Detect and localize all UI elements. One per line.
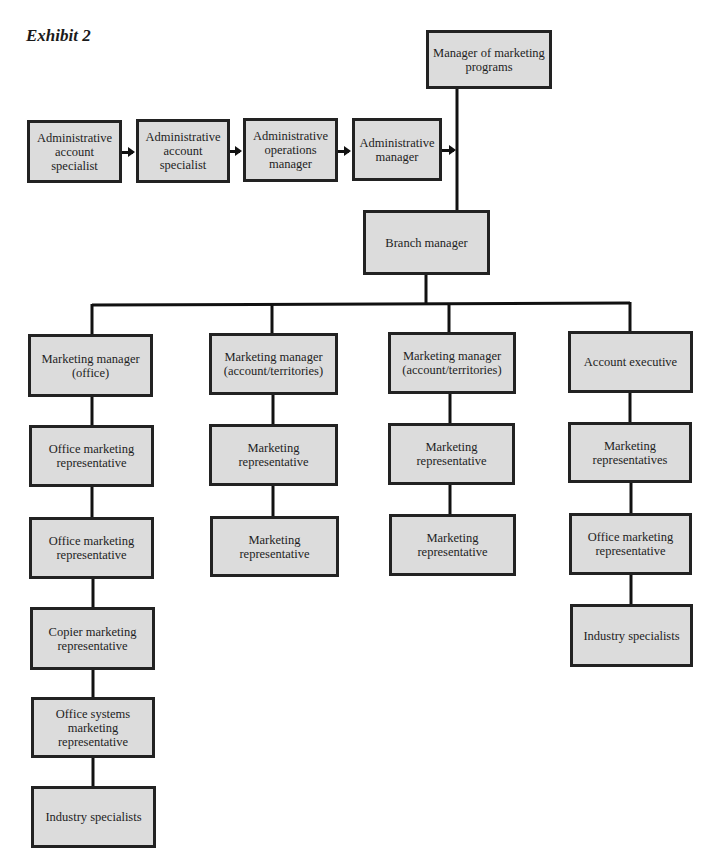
box-col3-child-2: Marketing representative	[389, 514, 516, 576]
box-admin-operations-manager: Administrative operations manager	[243, 118, 338, 182]
box-label: Marketing manager (account/territories)	[395, 349, 509, 377]
exhibit-title: Exhibit 2	[26, 26, 91, 46]
box-label: Copier marketing representative	[37, 625, 148, 653]
box-label: Administrative operations manager	[250, 129, 331, 171]
box-col1-head: Marketing manager (office)	[28, 334, 153, 397]
box-label: Administrative manager	[359, 136, 435, 164]
box-label: Marketing representative	[217, 533, 332, 561]
box-col4-child-3: Industry specialists	[570, 604, 693, 667]
box-label: Branch manager	[385, 236, 467, 250]
box-admin-account-specialist-1: Administrative account specialist	[27, 120, 122, 183]
box-label: Administrative account specialist	[34, 131, 115, 173]
box-label: Office systems marketing representative	[38, 707, 148, 749]
box-label: Manager of marketing programs	[433, 46, 545, 74]
box-label: Industry specialists	[45, 810, 141, 824]
box-label: Office marketing representative	[576, 530, 685, 558]
box-label: Marketing representative	[216, 441, 331, 469]
box-col1-child-1: Office marketing representative	[29, 425, 154, 487]
arrow-right-icon	[122, 151, 133, 154]
box-branch-manager: Branch manager	[363, 210, 490, 275]
arrow-right-icon	[338, 150, 349, 153]
box-label: Marketing manager (account/territories)	[216, 350, 331, 378]
box-col1-child-4: Office systems marketing representative	[31, 697, 155, 758]
box-col4-child-2: Office marketing representative	[569, 513, 692, 575]
box-col2-child-1: Marketing representative	[209, 424, 338, 486]
box-col4-child-1: Marketing representatives	[568, 422, 692, 483]
box-label: Marketing representatives	[575, 439, 685, 467]
box-col4-head: Account executive	[568, 331, 693, 393]
box-admin-account-specialist-2: Administrative account specialist	[136, 119, 230, 183]
box-manager-of-marketing-programs: Manager of marketing programs	[426, 30, 552, 89]
box-label: Office marketing representative	[36, 442, 147, 470]
arrow-right-icon	[230, 150, 240, 153]
box-label: Marketing representative	[396, 531, 509, 559]
box-col3-child-1: Marketing representative	[388, 423, 515, 485]
box-admin-manager: Administrative manager	[352, 118, 442, 181]
box-col1-child-5: Industry specialists	[31, 786, 156, 848]
arrow-right-icon	[442, 149, 454, 152]
box-label: Marketing representative	[395, 440, 508, 468]
box-label: Administrative account specialist	[143, 130, 223, 172]
box-col1-child-3: Copier marketing representative	[30, 607, 155, 670]
box-label: Account executive	[584, 355, 677, 369]
box-col2-head: Marketing manager (account/territories)	[209, 333, 338, 395]
box-col1-child-2: Office marketing representative	[29, 517, 154, 579]
box-label: Marketing manager (office)	[35, 352, 146, 380]
box-col3-head: Marketing manager (account/territories)	[388, 332, 516, 394]
box-label: Office marketing representative	[36, 534, 147, 562]
box-col2-child-2: Marketing representative	[210, 516, 339, 577]
box-label: Industry specialists	[583, 629, 679, 643]
